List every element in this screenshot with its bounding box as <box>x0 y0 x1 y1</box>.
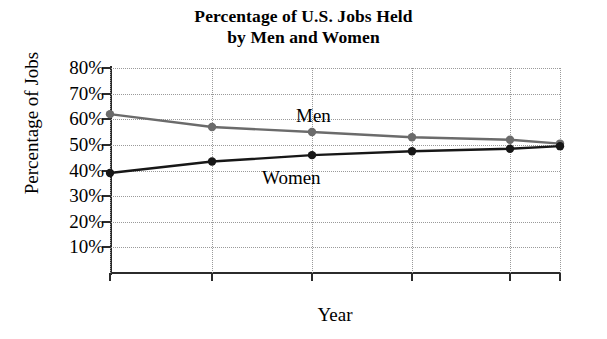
chart-title: Percentage of U.S. Jobs Held by Men and … <box>0 6 607 48</box>
x-axis-title: Year <box>110 304 560 326</box>
data-point-women-2010 <box>506 145 514 153</box>
chart-figure: Percentage of U.S. Jobs Held by Men and … <box>0 0 607 339</box>
data-point-men-1970 <box>106 110 114 118</box>
data-point-men-2000 <box>408 133 416 141</box>
data-point-women-2000 <box>408 147 416 155</box>
data-point-men-1990 <box>308 128 316 136</box>
series-label-men: Men <box>296 106 331 125</box>
y-tick-label-60: 60% <box>44 109 104 128</box>
y-tick-label-50: 50% <box>44 135 104 154</box>
y-tick-label-20: 20% <box>44 212 104 231</box>
data-point-women-2015 <box>556 142 564 150</box>
gridline-x-2015 <box>560 68 561 273</box>
data-point-women-1990 <box>308 151 316 159</box>
data-point-women-1970 <box>106 169 114 177</box>
series-line-women <box>110 146 560 173</box>
y-tick-label-30: 30% <box>44 186 104 205</box>
x-tick-2010 <box>509 273 511 281</box>
x-tick-2015 <box>559 273 561 281</box>
data-point-women-1980 <box>208 157 216 165</box>
chart-title-line-2: by Men and Women <box>0 27 607 48</box>
y-tick-label-80: 80% <box>44 58 104 77</box>
plot-area: 80%70%60%50%40%30%20%10% 197019801990200… <box>110 68 560 273</box>
x-tick-1980 <box>211 273 213 281</box>
y-tick-label-10: 10% <box>44 237 104 256</box>
y-tick-label-40: 40% <box>44 161 104 180</box>
chart-title-line-1: Percentage of U.S. Jobs Held <box>0 6 607 27</box>
series-line-men <box>110 114 560 143</box>
data-point-men-1980 <box>208 123 216 131</box>
y-tick-label-70: 70% <box>44 84 104 103</box>
x-tick-1970 <box>109 273 111 281</box>
data-point-men-2010 <box>506 136 514 144</box>
x-tick-1990 <box>311 273 313 281</box>
x-tick-2000 <box>411 273 413 281</box>
y-axis-title: Percentage of Jobs <box>21 13 43 233</box>
series-plot <box>110 68 560 273</box>
series-label-women: Women <box>262 168 321 187</box>
